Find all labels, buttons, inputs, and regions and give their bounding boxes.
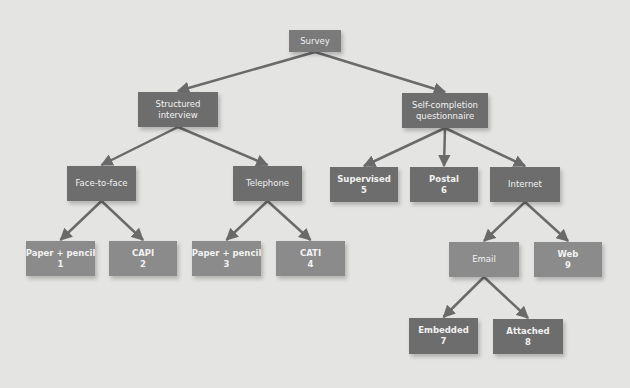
node-attached: Attached8 [493,319,563,354]
node-number: questionnaire [416,111,474,122]
node-label: Attached [506,326,549,337]
node-internet: Internet [490,167,560,202]
arrow-facetoface-to-paperpencil1 [61,201,102,240]
arrow-email-to-embedded [444,277,485,317]
node-facetoface: Face-to-face [67,166,136,201]
arrow-structured-to-telephone [178,127,268,165]
node-email: Email [449,242,519,277]
arrow-selfcompletion-to-supervised [364,128,445,166]
node-label: Email [472,254,496,265]
node-label: Telephone [246,178,289,189]
node-web: Web9 [534,242,602,277]
node-number: 5 [361,185,367,196]
node-label: CAPI [132,248,154,259]
node-label: Web [558,249,579,260]
node-label: CATI [300,248,321,259]
arrow-survey-to-selfcompletion [315,52,445,92]
node-number: 8 [525,337,531,348]
arrow-internet-to-web [525,202,568,241]
node-label: Postal [429,174,459,185]
node-paperpencil3: Paper + pencil3 [192,241,261,276]
node-label: Face-to-face [75,178,127,189]
arrow-selfcompletion-to-internet [445,128,525,166]
arrow-survey-to-structured [178,52,315,91]
node-label: Embedded [418,325,469,336]
node-embedded: Embedded7 [409,318,478,354]
node-number: 6 [441,185,447,196]
node-label: Internet [508,179,542,190]
node-label: Structured [156,99,201,110]
node-number: interview [158,110,197,121]
arrow-telephone-to-cati [268,201,311,240]
node-cati: CATI4 [276,241,345,276]
node-postal: Postal6 [410,167,478,202]
survey-tree-diagram: SurveyStructuredinterviewSelf-completion… [0,0,630,388]
node-label: Self-completion [412,100,478,111]
arrow-facetoface-to-capi [102,201,144,240]
node-number: 2 [140,259,146,270]
node-number: 1 [58,259,64,270]
node-number: 7 [441,336,447,347]
node-label: Paper + pencil [26,248,96,259]
node-capi: CAPI2 [109,241,177,276]
node-survey: Survey [289,30,341,52]
arrow-email-to-attached [484,277,528,318]
arrow-telephone-to-paperpencil3 [227,201,268,240]
arrow-selfcompletion-to-postal [444,128,445,166]
arrow-internet-to-email [484,202,525,241]
node-number: 9 [565,260,571,271]
node-label: Survey [300,36,330,47]
node-number: 4 [308,259,314,270]
node-structured: Structuredinterview [138,92,218,127]
node-label: Paper + pencil [192,248,262,259]
node-telephone: Telephone [233,166,302,201]
node-number: 3 [224,259,230,270]
node-label: Supervised [337,174,391,185]
node-selfcompletion: Self-completionquestionnaire [402,93,488,128]
node-supervised: Supervised5 [330,167,398,202]
arrow-structured-to-facetoface [102,127,179,165]
node-paperpencil1: Paper + pencil1 [26,241,95,276]
